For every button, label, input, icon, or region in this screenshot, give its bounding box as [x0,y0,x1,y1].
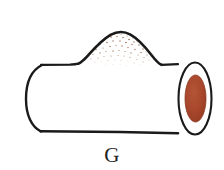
tube-top-right-edge [162,64,179,65]
tube-top-left-edge [41,64,79,65]
end-cap-core-ellipse [185,75,206,122]
figure-container: G [0,0,224,170]
tube-figure-drawing [0,0,224,170]
tube-body [26,31,182,132]
tube-bottom-edge [41,131,179,133]
tube-end-cap [179,63,212,135]
